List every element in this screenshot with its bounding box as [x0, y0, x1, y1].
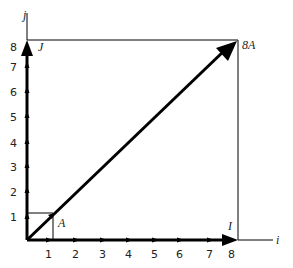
label-I: I	[227, 219, 233, 233]
y-tick-3: 3	[10, 161, 17, 174]
label-A: A	[57, 216, 66, 230]
label-8A: 8A	[242, 38, 256, 52]
x-tick-1: 1	[45, 248, 52, 261]
y-tick-6: 6	[10, 86, 17, 99]
label-J: J	[38, 40, 44, 54]
y-tick-labels: 1 1 2 3 4 5 6 7 8	[10, 41, 17, 224]
x-axis-arrowhead-icon	[222, 234, 238, 246]
x-tick-2: 2	[72, 248, 79, 261]
x-tick-8: 8	[228, 248, 235, 261]
y-axis-label: j	[21, 8, 27, 22]
x-tick-5: 5	[151, 248, 158, 261]
x-tick-7: 7	[206, 248, 213, 261]
x-tick-labels: 1 2 3 4 5 6 7 8	[45, 248, 235, 261]
y-tick-5: 5	[10, 111, 17, 124]
x-tick-6: 6	[176, 248, 183, 261]
y-axis-arrowhead-icon	[21, 40, 33, 56]
x-axis-label: i	[276, 233, 279, 247]
vector-diagram: 1 1 2 3 4 5 6 7 8 1 2 3 4 5 6 7 8 j i J …	[0, 0, 293, 268]
y-tick-7: 7	[10, 61, 17, 74]
vector-8A	[27, 49, 226, 240]
x-tick-4: 4	[125, 248, 132, 261]
y-tick-4: 4	[10, 137, 17, 150]
vector-8A-arrowhead-icon	[216, 41, 237, 61]
x-tick-3: 3	[99, 248, 106, 261]
y-tick-8: 8	[10, 41, 17, 54]
y-tick-1: 1	[10, 211, 17, 224]
y-tick-2: 2	[10, 186, 17, 199]
